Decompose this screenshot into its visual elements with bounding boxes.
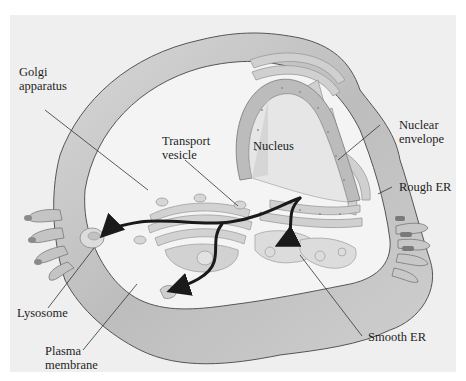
label-plasma-membrane: Plasma membrane — [45, 344, 98, 372]
diagram: Golgi apparatus Transport vesicle Nucleu… — [0, 0, 466, 381]
label-nuclear-envelope: Nuclear envelope — [399, 118, 444, 146]
lysosome — [80, 228, 104, 248]
label-rough-er: Rough ER — [399, 180, 451, 194]
label-nucleus: Nucleus — [253, 139, 294, 153]
label-smooth-er: Smooth ER — [368, 330, 426, 344]
label-lysosome: Lysosome — [17, 306, 68, 320]
label-golgi-apparatus: Golgi apparatus — [19, 65, 67, 93]
label-transport-vesicle: Transport vesicle — [162, 134, 210, 162]
cell-illustration — [0, 0, 466, 381]
